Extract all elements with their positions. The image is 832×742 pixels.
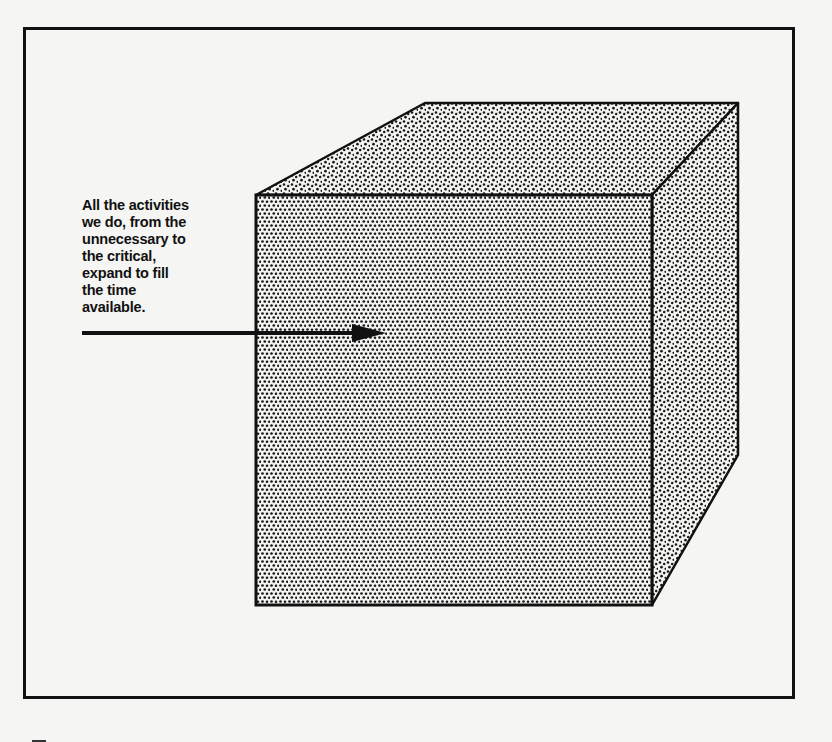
caption-line: expand to fill [82,265,242,282]
cube-front-face [256,195,652,605]
caption-line: the time [82,282,242,299]
caption-line: All the activities [82,197,242,214]
caption-line: the critical, [82,248,242,265]
caption-line: available. [82,299,242,316]
cube-illustration [0,0,832,742]
caption-line: unnecessary to [82,231,242,248]
figure-page: All the activities we do, from the unnec… [0,0,832,742]
figure-caption: All the activities we do, from the unnec… [82,197,242,316]
caption-line: we do, from the [82,214,242,231]
